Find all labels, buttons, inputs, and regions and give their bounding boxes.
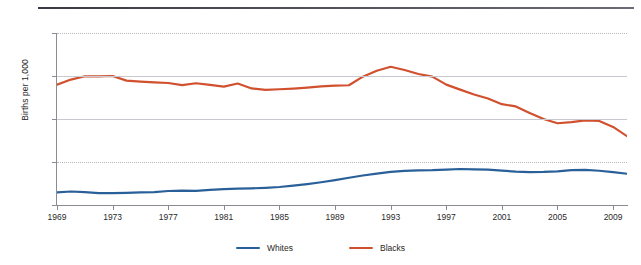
chart-page: Births per 1,000 032.56597.5130196919731… bbox=[0, 0, 641, 265]
x-tick-label: 1969 bbox=[48, 212, 67, 222]
x-tick-mark bbox=[613, 205, 614, 210]
x-tick-mark bbox=[335, 205, 336, 210]
x-tick-mark bbox=[57, 205, 58, 210]
legend-label: Whites bbox=[267, 243, 293, 253]
x-tick-label: 2001 bbox=[492, 212, 511, 222]
x-tick-label: 1981 bbox=[214, 212, 233, 222]
y-tick-mark bbox=[52, 162, 57, 163]
plot-area bbox=[57, 33, 627, 205]
y-tick-mark bbox=[52, 76, 57, 77]
x-tick-mark bbox=[113, 205, 114, 210]
gridline-y bbox=[57, 33, 627, 34]
series-line-blacks bbox=[57, 67, 627, 136]
gridline-y bbox=[57, 119, 627, 120]
x-tick-mark bbox=[446, 205, 447, 210]
legend-item-whites[interactable]: Whites bbox=[236, 243, 293, 253]
x-tick-mark bbox=[168, 205, 169, 210]
chart-legend: WhitesBlacks bbox=[0, 243, 641, 253]
x-tick-mark bbox=[557, 205, 558, 210]
series-line-whites bbox=[57, 169, 627, 193]
x-tick-label: 1985 bbox=[270, 212, 289, 222]
top-divider-rule bbox=[38, 7, 634, 9]
legend-label: Blacks bbox=[380, 243, 405, 253]
x-tick-label: 1973 bbox=[103, 212, 122, 222]
x-tick-label: 1993 bbox=[381, 212, 400, 222]
x-tick-label: 2005 bbox=[548, 212, 567, 222]
x-tick-mark bbox=[224, 205, 225, 210]
x-tick-mark bbox=[279, 205, 280, 210]
gridline-y bbox=[57, 162, 627, 163]
x-tick-mark bbox=[502, 205, 503, 210]
x-tick-label: 1997 bbox=[437, 212, 456, 222]
x-tick-mark bbox=[391, 205, 392, 210]
gridline-y bbox=[57, 76, 627, 77]
y-tick-mark bbox=[52, 33, 57, 34]
legend-swatch-icon bbox=[349, 247, 373, 250]
legend-item-blacks[interactable]: Blacks bbox=[349, 243, 405, 253]
x-tick-label: 2009 bbox=[604, 212, 623, 222]
legend-swatch-icon bbox=[236, 247, 260, 250]
x-tick-label: 1977 bbox=[159, 212, 178, 222]
y-axis-title: Births per 1,000 bbox=[20, 20, 30, 160]
x-axis-line bbox=[56, 205, 628, 206]
y-tick-mark bbox=[52, 119, 57, 120]
x-tick-label: 1989 bbox=[326, 212, 345, 222]
